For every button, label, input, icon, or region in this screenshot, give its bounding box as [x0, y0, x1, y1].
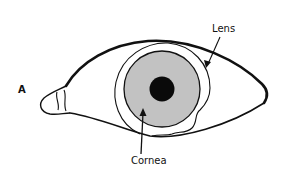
pupil [150, 77, 175, 102]
caruncle-fold-2 [64, 90, 66, 111]
caruncle-fold-1 [57, 92, 59, 110]
lens-label: Lens [212, 24, 235, 34]
panel-label: A [18, 85, 26, 95]
eye-diagram: A Lens Cornea [0, 0, 283, 185]
cornea-label: Cornea [131, 156, 167, 166]
